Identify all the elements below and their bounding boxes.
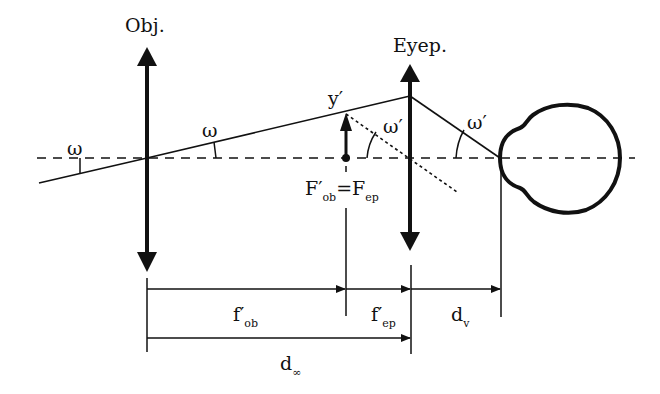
omega-left-label: ω (67, 139, 83, 158)
focal-point-main: F′ (305, 177, 323, 199)
d-v-sub: v (463, 317, 469, 330)
omega-prime-eye-label: ω′ (467, 113, 487, 132)
d-v-label: dv (451, 305, 469, 324)
telescope-diagram: Obj. Eyep. ω ω ω′ ω′ y′ F′ob=Fep f′ob f′… (0, 0, 660, 394)
focal-point-main-sub: ob (323, 191, 337, 204)
intermediate-image-arrow (340, 113, 352, 172)
omega-prime-inner-label: ω′ (383, 117, 403, 136)
f-ep-label: f′ep (371, 305, 396, 324)
f-ep-sub: ep (382, 317, 396, 330)
objective-label: Obj. (125, 16, 165, 35)
d-inf-sub: ∞ (292, 366, 301, 379)
focal-equals: = (336, 177, 352, 199)
eyepiece-label: Eyep. (393, 36, 447, 55)
f-ep-main: f′ (371, 303, 382, 325)
f-ob-main: f′ (233, 303, 244, 325)
ray-objective-to-eyepiece (147, 96, 410, 158)
f-ob-label: f′ob (233, 305, 258, 324)
eyepiece-lens (400, 64, 420, 251)
f-ob-sub: ob (244, 317, 258, 330)
image-height-label: y′ (328, 89, 343, 108)
angle-arc-omega-prime-inner (367, 132, 376, 158)
d-v-main: d (451, 303, 463, 325)
d-inf-main: d (280, 352, 292, 374)
d-inf-label: d∞ (280, 354, 301, 373)
focal-point-label: F′ob=Fep (305, 179, 379, 198)
angle-arc-omega-mid (214, 142, 216, 158)
focal-point-second: F (352, 177, 365, 199)
ray-incoming (39, 158, 147, 183)
angle-arc-omega-prime-eye (456, 130, 464, 158)
focal-point-second-sub: ep (365, 191, 379, 204)
omega-mid-label: ω (202, 121, 218, 140)
